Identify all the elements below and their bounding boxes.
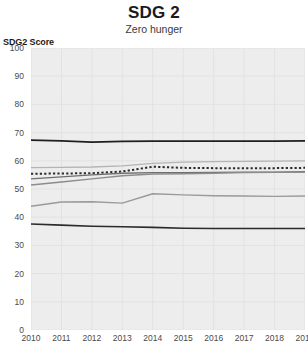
data-line-series-lower-gray (31, 194, 305, 206)
sdg2-chart: SDG 2 Zero hunger SDG2 Score 10090807060… (0, 0, 308, 356)
x-tick-label: 2010 (22, 333, 41, 343)
page-title: SDG 2 (0, 4, 308, 22)
y-tick-label: 100 (10, 43, 24, 53)
y-tick-label: 40 (15, 212, 24, 222)
series-lines (31, 140, 305, 228)
data-line-series-top-dark (31, 140, 305, 142)
y-tick-label: 80 (15, 99, 24, 109)
y-axis-tick-labels: 1009080706050403020100 (0, 48, 28, 330)
chart-header: SDG 2 Zero hunger (0, 0, 308, 36)
x-tick-label: 2012 (82, 333, 101, 343)
y-tick-label: 60 (15, 156, 24, 166)
plot-svg (31, 48, 305, 330)
x-tick-label: 2015 (174, 333, 193, 343)
chart-subtitle: Zero hunger (0, 22, 308, 36)
x-tick-label: 2016 (204, 333, 223, 343)
plot-area (31, 48, 305, 330)
x-tick-label: 2013 (113, 333, 132, 343)
y-tick-label: 50 (15, 184, 24, 194)
x-tick-label: 2011 (52, 333, 70, 343)
x-tick-label: 2018 (265, 333, 284, 343)
x-axis-tick-labels: 2010201120122013201420152016201720182019 (31, 333, 305, 353)
y-tick-label: 90 (15, 71, 24, 81)
x-tick-label: 2014 (143, 333, 162, 343)
y-tick-label: 70 (15, 128, 24, 138)
x-tick-label: 2017 (235, 333, 254, 343)
gridlines (31, 48, 305, 330)
y-tick-label: 30 (15, 240, 24, 250)
y-tick-label: 20 (15, 269, 24, 279)
x-tick-label: 2019 (296, 333, 308, 343)
y-tick-label: 10 (15, 297, 24, 307)
data-line-series-bottom-dark (31, 224, 305, 229)
